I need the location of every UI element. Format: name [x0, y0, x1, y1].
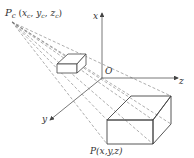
projection-diagram: Pc (xc, yc, zc) x z y O P(x,y,z): [0, 0, 194, 158]
z-axis-label: z: [178, 76, 184, 86]
x-axis-label: x: [93, 11, 98, 21]
y-axis-label: y: [41, 114, 48, 124]
projected-box: [57, 54, 86, 73]
object-point-label: P(x,y,z): [89, 146, 123, 156]
projection-rays: [12, 22, 171, 144]
y-axis: [50, 78, 102, 120]
pc-label: Pc (xc, yc, zc): [4, 7, 62, 20]
origin-label: O: [105, 66, 113, 76]
